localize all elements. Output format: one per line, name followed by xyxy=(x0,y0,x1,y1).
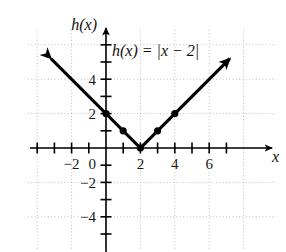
coordinate-plane: −20246 42−2−4 h(x) x h(x) = |x − 2| xyxy=(0,0,286,252)
x-tick-label: 2 xyxy=(137,156,145,172)
y-tick-label: −4 xyxy=(80,209,96,225)
x-axis-label: x xyxy=(271,148,279,165)
x-tick-label: 4 xyxy=(171,156,179,172)
grid-lines xyxy=(28,30,276,250)
y-tick-label: 4 xyxy=(89,72,97,88)
x-tick-label: −2 xyxy=(64,156,80,172)
graph-figure: −20246 42−2−4 h(x) x h(x) = |x − 2| xyxy=(0,0,286,252)
data-point xyxy=(154,127,161,134)
x-tick-labels: −20246 xyxy=(64,156,214,172)
data-point xyxy=(171,110,178,117)
x-tick-label: 0 xyxy=(89,156,97,172)
data-point xyxy=(102,110,109,117)
y-tick-label: −2 xyxy=(80,175,96,191)
y-tick-label: 2 xyxy=(89,106,97,122)
equation-label: h(x) = |x − 2| xyxy=(112,42,199,60)
y-axis-label: h(x) xyxy=(71,16,97,34)
data-point xyxy=(137,144,144,151)
x-tick-label: 6 xyxy=(205,156,213,172)
data-point xyxy=(120,127,127,134)
